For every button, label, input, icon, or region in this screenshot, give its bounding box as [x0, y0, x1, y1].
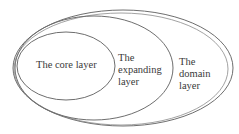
domain-layer-label: The domain layer	[179, 56, 211, 92]
core-layer-label: The core layer	[36, 59, 97, 71]
expanding-layer-label: The expanding layer	[118, 52, 162, 88]
